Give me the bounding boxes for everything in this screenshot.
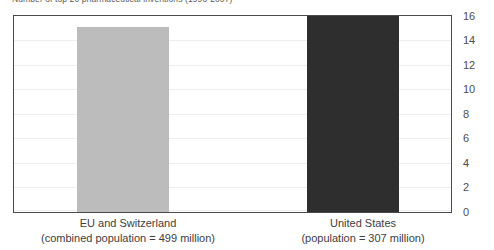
y-tick-label-4: 4 (463, 157, 469, 168)
y-tick-label-6: 6 (463, 133, 469, 144)
y-tick-label-16: 16 (463, 11, 475, 22)
y-tick-label-12: 12 (463, 59, 475, 70)
bar-eu-and-switzerland[interactable] (77, 27, 169, 212)
y-tick-label-10: 10 (463, 84, 475, 95)
y-tick-label-2: 2 (463, 182, 469, 193)
x-category-sublabel-eu: (combined population = 499 million) (13, 231, 243, 246)
chart-title: Number of top 20 pharmaceutical inventio… (12, 0, 482, 5)
y-axis: 16 14 12 10 8 6 4 2 0 (456, 0, 490, 250)
y-tick-label-14: 14 (463, 35, 475, 46)
x-category-united-states: United States (population = 307 million) (255, 216, 471, 246)
plot-area (13, 15, 452, 213)
bar-united-states[interactable] (307, 16, 399, 212)
x-category-label-eu: EU and Switzerland (13, 216, 243, 231)
x-axis: EU and Switzerland (combined population … (0, 216, 494, 250)
x-category-label-us: United States (255, 216, 471, 231)
y-tick-label-8: 8 (463, 108, 469, 119)
x-category-eu-and-switzerland: EU and Switzerland (combined population … (13, 216, 243, 246)
x-category-sublabel-us: (population = 307 million) (255, 231, 471, 246)
bar-chart-figure: Number of top 20 pharmaceutical inventio… (0, 0, 494, 250)
